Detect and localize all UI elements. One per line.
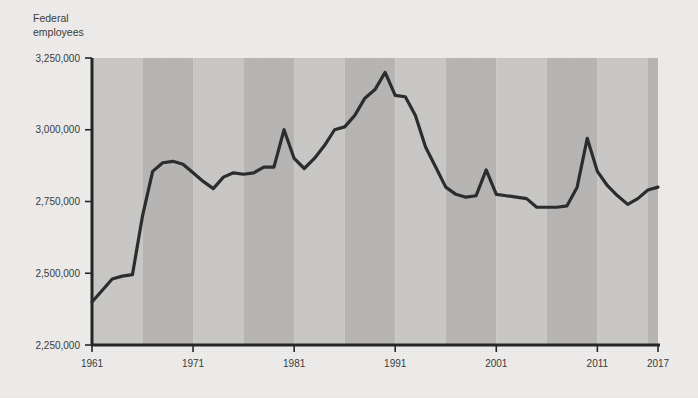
svg-text:2,250,000: 2,250,000 [36, 340, 81, 351]
federal-employees-line-chart: 3,250,0003,000,0002,750,0002,500,0002,25… [0, 0, 698, 398]
svg-text:3,250,000: 3,250,000 [36, 53, 81, 64]
svg-text:1961: 1961 [81, 358, 104, 369]
y-axis-tick-labels: 3,250,0003,000,0002,750,0002,500,0002,25… [36, 53, 81, 351]
svg-text:2001: 2001 [485, 358, 508, 369]
svg-text:3,000,000: 3,000,000 [36, 124, 81, 135]
y-axis-title-line2: employees [33, 26, 84, 38]
svg-text:2,500,000: 2,500,000 [36, 268, 81, 279]
svg-text:1981: 1981 [283, 358, 306, 369]
svg-text:2011: 2011 [587, 358, 609, 369]
plot-background-bands [92, 58, 658, 345]
svg-text:1971: 1971 [182, 358, 205, 369]
x-axis-tick-labels: 1961197119811991200120112017 [81, 358, 670, 369]
svg-text:2,750,000: 2,750,000 [36, 196, 81, 207]
chart-canvas: 3,250,0003,000,0002,750,0002,500,0002,25… [0, 0, 698, 398]
svg-text:1991: 1991 [384, 358, 407, 369]
y-axis-title-line1: Federal [33, 12, 69, 24]
svg-text:2017: 2017 [647, 358, 670, 369]
